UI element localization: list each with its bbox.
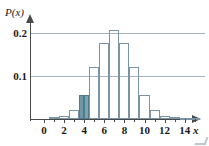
x-tick-label-14: 14 [175,124,195,137]
x-minor-tick [134,119,135,122]
x-tick-label-2: 2 [54,124,74,137]
x-major-tick [145,119,146,123]
bar [139,95,149,119]
x-minor-tick [74,119,75,122]
bar [89,67,99,119]
x-tick-label-8: 8 [114,124,134,137]
x-minor-tick [195,119,196,122]
x-tick-label-12: 12 [155,124,175,137]
x-major-tick [64,119,65,123]
x-major-tick [165,119,166,123]
y-tick-label-0.1: 0.1 [1,70,27,82]
y-tick-label-0.2: 0.2 [1,27,27,39]
x-minor-tick [54,119,55,122]
x-minor-tick [94,119,95,122]
bar [150,110,160,119]
x-minor-tick [155,119,156,122]
x-tick-label-10: 10 [135,124,155,137]
bar [129,67,139,119]
x-major-tick [44,119,45,123]
x-major-tick [104,119,105,123]
bar [119,43,129,119]
x-tick-label-0: 0 [34,124,54,137]
x-tick-label-6: 6 [94,124,114,137]
y-axis-line [30,20,31,121]
x-major-tick [124,119,125,123]
probability-distribution-chart: 0.2 0.1 P(x) x 02468101214 [0,0,209,146]
y-axis-title: P(x) [5,6,24,18]
x-major-tick [185,119,186,123]
bar [109,30,119,119]
y-axis-arrow [26,14,34,23]
x-minor-tick [114,119,115,122]
x-tick-label-4: 4 [74,124,94,137]
bar [69,110,79,119]
corner-artifact [195,137,209,145]
x-minor-tick [175,119,176,122]
x-major-tick [84,119,85,123]
bar [99,43,109,119]
